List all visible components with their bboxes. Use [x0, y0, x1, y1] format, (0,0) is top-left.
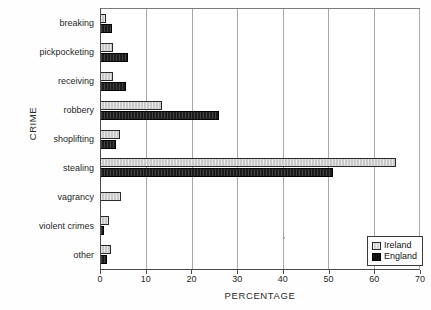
bar-group	[101, 125, 419, 154]
legend-item-england: England	[372, 251, 417, 262]
bar-england	[101, 24, 112, 33]
legend-swatch-icon	[372, 253, 381, 261]
y-axis-label: receiving	[18, 66, 98, 95]
bar-group	[101, 9, 419, 38]
x-axis-tick-label: 30	[232, 274, 242, 284]
y-axis-label: stealing	[18, 154, 98, 183]
bar-groups	[101, 9, 419, 269]
x-axis-tick-label: 40	[278, 274, 288, 284]
x-axis-title: PERCENTAGE	[100, 290, 420, 301]
bar-ireland	[101, 158, 396, 167]
x-axis-tick-label: 20	[186, 274, 196, 284]
x-axis-tick-label: 50	[324, 274, 334, 284]
bar-england	[101, 255, 107, 264]
y-axis-label: pickpocketing	[18, 37, 98, 66]
bar-england	[101, 111, 219, 120]
x-axis-tick-label: 70	[415, 274, 425, 284]
y-axis-label: other	[18, 241, 98, 270]
legend-label: England	[384, 252, 417, 261]
x-axis-tick-label: 10	[141, 274, 151, 284]
legend-swatch-icon	[372, 242, 381, 250]
bar-group	[101, 153, 419, 182]
legend: IrelandEngland	[367, 236, 423, 266]
y-axis-label: shoplifting	[18, 124, 98, 153]
bar-ireland	[101, 245, 111, 254]
bar-ireland	[101, 216, 109, 225]
bar-ireland	[101, 72, 113, 81]
y-axis-label: robbery	[18, 95, 98, 124]
gridline	[419, 9, 420, 269]
chart-figure: CRIME breakingpickpocketingreceivingrobb…	[0, 0, 431, 310]
x-axis-tick-label: 60	[369, 274, 379, 284]
legend-label: Ireland	[384, 241, 412, 250]
bar-ireland	[101, 14, 106, 23]
bar-group	[101, 38, 419, 67]
bar-group	[101, 182, 419, 211]
y-axis-label: violent crimes	[18, 212, 98, 241]
bar-ireland	[101, 43, 113, 52]
bar-england	[101, 140, 116, 149]
bar-group	[101, 96, 419, 125]
bar-ireland	[101, 192, 121, 201]
scan-artifact	[283, 237, 285, 239]
bar-england	[101, 226, 104, 235]
bar-england	[101, 168, 333, 177]
plot-area	[100, 8, 420, 270]
bar-ireland	[101, 130, 120, 139]
y-axis-category-labels: breakingpickpocketingreceivingrobberysho…	[18, 8, 98, 270]
bar-england	[101, 53, 128, 62]
y-axis-label: breaking	[18, 8, 98, 37]
bar-group	[101, 67, 419, 96]
x-axis-tick-labels: 010203040506070	[100, 274, 420, 288]
legend-item-ireland: Ireland	[372, 240, 417, 251]
y-axis-label: vagrancy	[18, 183, 98, 212]
bar-england	[101, 82, 126, 91]
x-axis-tick-label: 0	[97, 274, 102, 284]
bar-ireland	[101, 101, 162, 110]
